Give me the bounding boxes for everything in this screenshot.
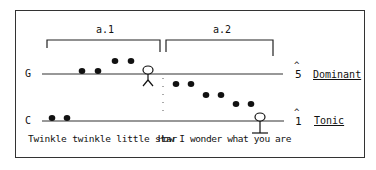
lyrics-phrase-2: How I wonder what you are xyxy=(158,134,291,144)
function-label-tonic: Tonic xyxy=(314,116,344,126)
melody-diagram xyxy=(0,0,376,170)
bracket-a2 xyxy=(166,40,273,56)
scale-degree-1: 1 xyxy=(295,117,302,127)
section-label-a2: a.2 xyxy=(213,25,231,35)
notes-a1 xyxy=(49,58,135,121)
half-cadence-figure-icon xyxy=(143,66,153,86)
notes-a2 xyxy=(173,81,255,107)
bracket-a1 xyxy=(47,40,160,52)
note-label-g: G xyxy=(25,69,31,79)
scale-degree-5: 5 xyxy=(295,70,302,80)
section-label-a1: a.1 xyxy=(96,25,114,35)
full-cadence-figure-icon xyxy=(252,113,268,133)
lyrics-phrase-1: Twinkle twinkle little star xyxy=(28,134,177,144)
function-label-dominant: Dominant xyxy=(313,70,361,80)
note-label-c: C xyxy=(25,116,31,126)
